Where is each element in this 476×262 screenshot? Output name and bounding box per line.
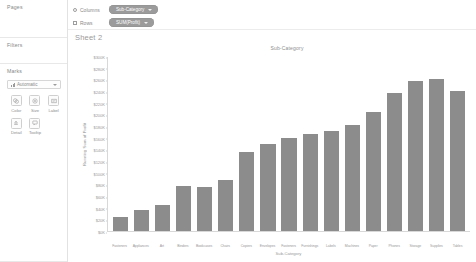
x-axis-tick-label: Tables xyxy=(447,244,468,248)
bar-series xyxy=(108,57,470,231)
marks-label-label: Label xyxy=(49,108,59,113)
bar-cell xyxy=(194,57,215,231)
bar[interactable] xyxy=(429,79,444,231)
tableau-worksheet: Pages Filters Marks Automatic xyxy=(0,0,476,262)
marks-size-button[interactable]: Size xyxy=(26,95,45,113)
bar-cell xyxy=(257,57,278,231)
y-axis-title: Running Sum of Profit xyxy=(80,57,88,232)
y-axis-tick: $240K xyxy=(93,90,105,95)
x-axis-tick-label: Art xyxy=(151,244,172,248)
bar-cell xyxy=(447,57,468,231)
x-axis-tick-label: Paper xyxy=(363,244,384,248)
y-axis: $0K$20K$40K$60K$80K$100K$120K$140K$160K$… xyxy=(88,57,108,232)
rows-icon xyxy=(73,21,77,25)
bar[interactable] xyxy=(408,81,423,231)
marks-tooltip-label: Tooltip xyxy=(29,130,41,135)
left-cards-panel: Pages Filters Marks Automatic xyxy=(0,0,68,262)
bar[interactable] xyxy=(366,112,381,231)
bar[interactable] xyxy=(345,125,360,231)
columns-shelf[interactable]: Columns Sub-Category xyxy=(73,4,476,15)
y-axis-tick: $260K xyxy=(93,78,105,83)
rows-shelf-label: Rows xyxy=(80,20,93,26)
bar-cell xyxy=(342,57,363,231)
y-axis-tick: $140K xyxy=(93,148,105,153)
bar[interactable] xyxy=(218,180,233,231)
bar[interactable] xyxy=(387,93,402,231)
y-axis-tick: $180K xyxy=(93,125,105,130)
y-axis-tick: $80K xyxy=(96,183,105,188)
bar[interactable] xyxy=(155,205,170,231)
marks-buttons: Color Size xyxy=(7,95,63,135)
bar[interactable] xyxy=(176,186,191,231)
x-axis-tick-label: Chairs xyxy=(215,244,236,248)
plot-area xyxy=(108,57,470,232)
x-axis-tick-label: Fasteners xyxy=(109,244,130,248)
y-axis-tick: $0K xyxy=(98,230,105,235)
bar[interactable] xyxy=(134,210,149,231)
pill-sum-profit[interactable]: SUM(Profit) xyxy=(109,18,154,27)
pages-card: Pages xyxy=(0,0,67,38)
y-axis-tick: $60K xyxy=(96,195,105,200)
x-axis-tick-label: Fasteners xyxy=(278,244,299,248)
y-axis-tick: $280K xyxy=(93,66,105,71)
x-axis-title: Sub-Category xyxy=(107,251,470,256)
x-axis-tick-label: Phones xyxy=(384,244,405,248)
marks-color-label: Color xyxy=(11,108,21,113)
y-axis-tick: $300K xyxy=(93,55,105,60)
bar[interactable] xyxy=(281,138,296,231)
bar[interactable] xyxy=(324,131,339,231)
bar-cell xyxy=(300,57,321,231)
columns-shelf-label: Columns xyxy=(80,7,100,13)
chevron-down-icon xyxy=(53,84,57,86)
marks-label-button[interactable]: Label xyxy=(44,95,63,113)
bar-cell xyxy=(110,57,131,231)
marks-detail-button[interactable]: Detail xyxy=(7,118,26,136)
bar-cell xyxy=(321,57,342,231)
worksheet-area: Columns Sub-Category Rows SUM(Profit) Sh… xyxy=(68,0,476,262)
bar-cell xyxy=(279,57,300,231)
x-axis-tick-label: Copiers xyxy=(236,244,257,248)
x-axis-tick-label: Labels xyxy=(320,244,341,248)
columns-icon xyxy=(73,8,77,12)
color-icon xyxy=(11,95,22,106)
bar[interactable] xyxy=(197,187,212,231)
x-axis-tick-label: Binders xyxy=(172,244,193,248)
y-axis-tick: $40K xyxy=(96,206,105,211)
x-axis-tick-label: Envelopes xyxy=(257,244,278,248)
marks-detail-label: Detail xyxy=(11,130,22,135)
x-axis-tick-label: Machines xyxy=(341,244,362,248)
pages-card-title: Pages xyxy=(7,4,62,11)
y-axis-tick: $200K xyxy=(93,113,105,118)
bar-mark-icon xyxy=(11,83,15,87)
detail-icon xyxy=(11,118,22,129)
rows-shelf-label-wrap: Rows xyxy=(73,20,109,26)
bar-cell xyxy=(173,57,194,231)
sheet-title: Sheet 2 xyxy=(68,30,476,43)
filters-card-title: Filters xyxy=(7,42,62,49)
marks-color-button[interactable]: Color xyxy=(7,95,26,113)
chevron-down-icon xyxy=(144,22,148,24)
bar[interactable] xyxy=(303,134,318,231)
label-icon xyxy=(48,95,59,106)
bar-cell xyxy=(215,57,236,231)
bar-cell xyxy=(363,57,384,231)
rows-shelf[interactable]: Rows SUM(Profit) xyxy=(73,17,476,28)
x-axis-tick-label: Supplies xyxy=(426,244,447,248)
x-axis-tick-label: Appliances xyxy=(130,244,151,248)
marks-tooltip-button[interactable]: Tooltip xyxy=(26,118,45,136)
marks-card: Marks Automatic Color xyxy=(0,64,67,262)
bar[interactable] xyxy=(450,91,465,231)
bar-cell xyxy=(405,57,426,231)
pill-sub-category[interactable]: Sub-Category xyxy=(109,5,158,14)
x-axis-tick-label: Storage xyxy=(405,244,426,248)
bar-cell xyxy=(152,57,173,231)
viz-region: Sub-Category Running Sum of Profit $0K$2… xyxy=(68,43,476,258)
mark-type-dropdown[interactable]: Automatic xyxy=(7,80,61,89)
bar[interactable] xyxy=(113,217,128,231)
bar[interactable] xyxy=(239,152,254,231)
chevron-down-icon xyxy=(148,9,152,11)
bar[interactable] xyxy=(260,144,275,231)
bar-cell xyxy=(384,57,405,231)
filters-card: Filters xyxy=(0,38,67,64)
x-axis-labels: FastenersAppliancesArtBindersBookcasesCh… xyxy=(107,244,470,248)
